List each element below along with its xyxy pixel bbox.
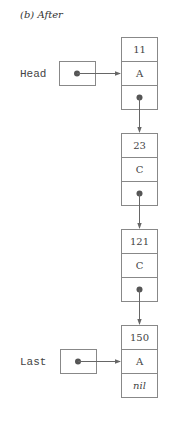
linked-list-diagram: (b) After Head 11 A 23 C 121 C [0, 0, 170, 424]
node-key: 11 [133, 44, 146, 55]
last-label: Last [20, 356, 46, 368]
last-pointer: Last [20, 350, 120, 374]
list-node-1: 11 A [122, 38, 158, 133]
node-value: C [136, 164, 144, 175]
node-key: 23 [133, 140, 146, 151]
node-key: 121 [130, 236, 149, 247]
list-node-2: 23 C [122, 134, 158, 229]
head-pointer: Head [20, 62, 120, 86]
list-node-3: 121 C [122, 230, 158, 325]
head-label: Head [20, 68, 46, 80]
node-value: C [136, 260, 144, 271]
node-value: A [135, 356, 144, 367]
list-node-4: 150 A nil [122, 326, 158, 398]
node-next-nil: nil [133, 380, 146, 391]
diagram-title: (b) After [20, 9, 64, 20]
node-value: A [135, 68, 144, 79]
node-key: 150 [130, 332, 149, 343]
